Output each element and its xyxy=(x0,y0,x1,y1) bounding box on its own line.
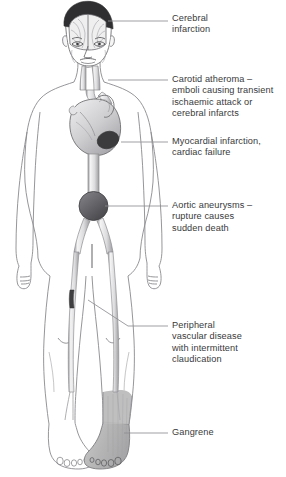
head xyxy=(63,1,115,67)
label-carotid-atheroma: Carotid atheroma – emboli causing transi… xyxy=(172,74,273,120)
label-peripheral-vascular-disease: Peripheral vascular disease with intermi… xyxy=(172,320,242,366)
label-myocardial-infarction: Myocardial infarction, cardiac failure xyxy=(172,136,261,159)
leader-peripheral-vascular-disease xyxy=(88,300,168,326)
figure-illustration xyxy=(0,0,286,477)
leg-stenosis-marker xyxy=(69,290,74,308)
aortic-aneurysm-marker xyxy=(79,192,108,221)
gangrenous-foot xyxy=(84,390,132,469)
atherosclerosis-diagram: Cerebral infarction Carotid atheroma – e… xyxy=(0,0,286,477)
label-gangrene: Gangrene xyxy=(172,427,214,438)
label-cerebral-infarction: Cerebral infarction xyxy=(172,13,210,36)
arterial-system xyxy=(65,66,121,420)
label-aortic-aneurysms: Aortic aneurysms – rupture causes sudden… xyxy=(172,200,252,234)
